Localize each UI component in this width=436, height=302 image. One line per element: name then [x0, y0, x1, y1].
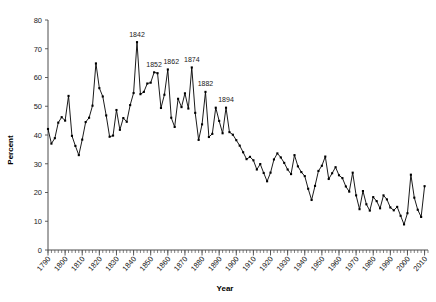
data-point: [246, 158, 248, 160]
data-point: [47, 128, 49, 130]
y-tick-label: 10: [34, 217, 42, 226]
data-point: [355, 194, 357, 196]
data-point: [331, 172, 333, 174]
data-point: [85, 121, 87, 123]
x-tick-label: 1980: [360, 255, 378, 274]
data-point: [115, 109, 117, 111]
y-axis: 01020304050607080: [34, 16, 48, 255]
data-point: [293, 154, 295, 156]
data-point: [119, 129, 121, 131]
data-point: [235, 139, 237, 141]
data-point: [376, 200, 378, 202]
x-tick-label: 2010: [411, 255, 429, 274]
peak-label: 1842: [129, 31, 145, 38]
data-point: [225, 107, 227, 109]
data-point: [290, 173, 292, 175]
peak-label: 1882: [198, 80, 214, 87]
x-axis-title: Year: [217, 284, 234, 293]
data-point: [242, 151, 244, 153]
data-point: [160, 107, 162, 109]
data-point: [54, 137, 56, 139]
data-point: [256, 168, 258, 170]
data-point: [269, 172, 271, 174]
data-point: [129, 104, 131, 106]
data-point: [109, 136, 111, 138]
x-tick-label: 1790: [35, 255, 53, 274]
y-tick-label: 50: [34, 102, 42, 111]
data-point: [146, 82, 148, 84]
data-point: [307, 188, 309, 190]
x-tick-label: 1970: [343, 255, 361, 274]
data-point: [311, 199, 313, 201]
data-point: [410, 174, 412, 176]
x-tick-label: 1920: [257, 255, 275, 274]
data-series: [48, 42, 425, 224]
x-tick-label: 1820: [86, 255, 104, 274]
data-point: [362, 190, 364, 192]
data-point: [218, 120, 220, 122]
data-point: [348, 191, 350, 193]
data-point: [98, 87, 100, 89]
data-point: [143, 91, 145, 93]
y-tick-label: 30: [34, 160, 42, 169]
x-tick-label: 1890: [206, 255, 224, 274]
data-point: [413, 197, 415, 199]
data-point: [78, 154, 80, 156]
data-point: [352, 172, 354, 174]
data-point: [276, 152, 278, 154]
data-point: [157, 72, 159, 74]
data-point: [400, 215, 402, 217]
x-tick-label: 2000: [394, 255, 412, 274]
data-point: [139, 93, 141, 95]
data-point: [403, 223, 405, 225]
data-point: [389, 206, 391, 208]
series-polyline: [48, 42, 425, 224]
data-point: [105, 114, 107, 116]
data-point: [228, 131, 230, 133]
data-point: [372, 196, 374, 198]
data-point: [317, 170, 319, 172]
peak-label: 1862: [163, 58, 179, 65]
data-point: [136, 41, 138, 43]
data-point: [201, 123, 203, 125]
data-point: [324, 156, 326, 158]
x-axis: 1790180018101820183018401850186018701880…: [35, 250, 429, 273]
y-tick-label: 70: [34, 45, 42, 54]
data-point: [335, 166, 337, 168]
data-point: [300, 171, 302, 173]
data-point: [358, 208, 360, 210]
x-tick-label: 1840: [120, 255, 138, 274]
data-point: [71, 135, 73, 137]
data-point: [204, 91, 206, 93]
data-point: [95, 62, 97, 64]
data-point: [222, 132, 224, 134]
data-point: [280, 156, 282, 158]
data-point: [191, 66, 193, 68]
data-point: [249, 156, 251, 158]
data-point: [50, 143, 52, 145]
line-chart: 01020304050607080 1790180018101820183018…: [0, 0, 436, 302]
data-point: [61, 116, 63, 118]
chart-canvas: 01020304050607080 1790180018101820183018…: [0, 0, 436, 302]
data-point: [386, 198, 388, 200]
x-tick-label: 1950: [309, 255, 327, 274]
data-point: [57, 122, 59, 124]
data-point: [338, 174, 340, 176]
data-point: [194, 112, 196, 114]
x-tick-label: 1930: [275, 255, 293, 274]
y-tick-label: 0: [38, 246, 42, 255]
data-point: [321, 165, 323, 167]
data-point: [263, 172, 265, 174]
peak-label: 1874: [184, 56, 200, 63]
data-point: [163, 94, 165, 96]
x-tick-label: 1900: [223, 255, 241, 274]
data-point: [420, 216, 422, 218]
x-tick-label: 1850: [138, 255, 156, 274]
data-point: [133, 92, 135, 94]
data-point: [273, 158, 275, 160]
data-point: [198, 139, 200, 141]
data-point: [393, 209, 395, 211]
data-point: [424, 185, 426, 187]
y-tick-label: 20: [34, 188, 42, 197]
data-point: [150, 82, 152, 84]
